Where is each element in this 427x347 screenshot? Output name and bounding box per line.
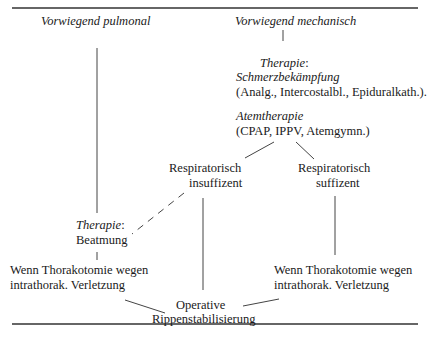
resp-sufficient-line2: suffizent: [316, 176, 360, 191]
therapy-pain-label: Therapie:: [260, 56, 309, 71]
therapy-pain-label-suffix: :: [305, 56, 308, 70]
thoracotomy-right-line1: Wenn Thorakotomie wegen: [274, 263, 412, 278]
thoracotomy-left-line2: intrathorak. Verletzung: [10, 278, 125, 293]
therapy-ventilation-label-italic: Therapie: [76, 218, 121, 232]
therapy-pain-detail: (Analg., Intercostalbl., Epiduralkath.).: [236, 85, 427, 100]
operative-line2: Rippenstabilisierung: [152, 312, 255, 327]
resp-insufficient-line1: Respiratorisch: [169, 161, 241, 176]
edge-thorak-right-to-operative: [243, 299, 279, 306]
edge-atem-to-insuff: [245, 142, 274, 158]
therapy-ventilation-label: Therapie:: [76, 218, 125, 233]
breathing-therapy-title: Atemtherapie: [236, 109, 303, 124]
left-column-header: Vorwiegend pulmonal: [41, 14, 150, 29]
breathing-therapy-detail: (CPAP, IPPV, Atemgymn.): [236, 124, 370, 139]
edge-insuff-to-beatmung-dashed: [132, 193, 184, 234]
edge-atem-to-suff: [296, 142, 314, 159]
right-column-header: Vorwiegend mechanisch: [235, 14, 356, 29]
therapy-ventilation-label-suffix: :: [121, 218, 124, 232]
resp-insufficient-line2: insuffizent: [189, 176, 242, 191]
therapy-pain-label-italic: Therapie: [260, 56, 305, 70]
resp-sufficient-line1: Respiratorisch: [298, 161, 370, 176]
thoracotomy-right-line2: intrathorak. Verletzung: [274, 278, 389, 293]
thoracotomy-left-line1: Wenn Thorakotomie wegen: [10, 263, 148, 278]
operative-line1: Operative: [176, 298, 225, 313]
therapy-pain-title: Schmerzbekämpfung: [236, 70, 339, 85]
therapy-ventilation-detail: Beatmung: [76, 233, 127, 248]
